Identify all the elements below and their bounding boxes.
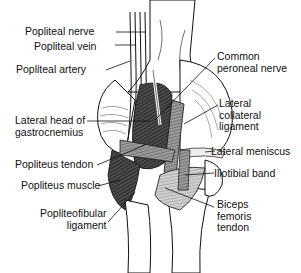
iliotibial-band [178,150,190,190]
label-popliteus-tendon: Popliteus tendon [15,159,93,171]
label-popliteofibular-ligament: Popliteofibular ligament [40,208,107,231]
label-lateral-meniscus: Lateral meniscus [211,146,290,158]
label-lateral-collateral-ligament: Lateral collateral ligament [219,98,261,133]
label-popliteal-nerve: Popliteal nerve [25,26,94,38]
label-lateral-head-gastrocnemius: Lateral head of gastrocnemius [15,115,85,138]
label-popliteus-muscle: Popliteus muscle [21,180,100,192]
label-common-peroneal-nerve: Common peroneal nerve [217,51,287,74]
label-popliteal-vein: Popliteal vein [34,41,96,53]
label-iliotibial-band: Iliotibial band [214,168,275,180]
label-biceps-femoris-tendon: Biceps femoris tendon [217,199,251,234]
label-popliteal-artery: Popliteal artery [16,64,86,76]
